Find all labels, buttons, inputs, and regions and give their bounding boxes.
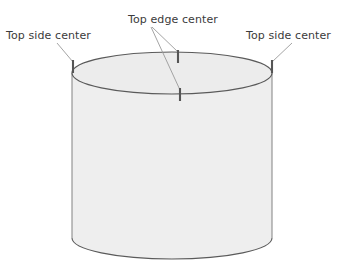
label-top-edge-center: Top edge center bbox=[128, 13, 218, 26]
leader-top-side-right-line bbox=[272, 43, 292, 62]
label-top-side-center-right: Top side center bbox=[246, 29, 331, 42]
leader-top-edge-back-line bbox=[152, 27, 178, 52]
cylinder-shape bbox=[72, 52, 272, 259]
label-top-side-center-left: Top side center bbox=[6, 29, 91, 42]
leader-top-side-left-line bbox=[57, 43, 73, 62]
diagram-canvas: Top side center Top edge center Top side… bbox=[0, 0, 341, 266]
